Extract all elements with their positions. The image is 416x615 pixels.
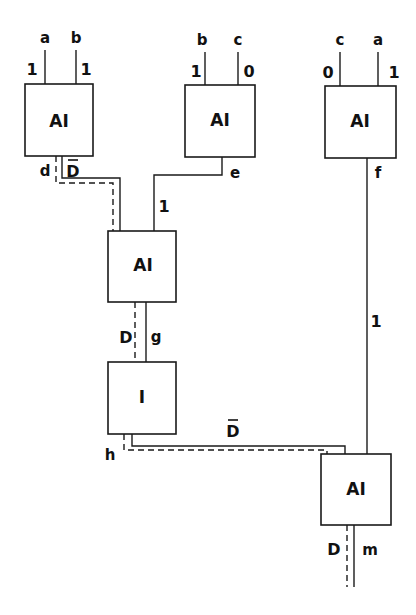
gate-label: AI bbox=[49, 111, 68, 131]
signal-label-c: c bbox=[234, 31, 243, 49]
gate-label: AI bbox=[133, 255, 152, 275]
signal-label-m: m bbox=[362, 541, 378, 559]
d-path-d bbox=[56, 156, 113, 231]
gate-5: I bbox=[108, 362, 176, 434]
value-label: 0 bbox=[243, 62, 254, 81]
value-label: 1 bbox=[80, 60, 91, 79]
gate-label: AI bbox=[350, 111, 369, 131]
gate-4: AI bbox=[108, 231, 176, 302]
value-label: 0 bbox=[322, 63, 333, 82]
wire-e bbox=[154, 157, 222, 231]
value-label-g: D bbox=[119, 328, 132, 347]
signal-label-g: g bbox=[151, 328, 162, 346]
value-label: 1 bbox=[26, 60, 37, 79]
signal-label-a: a bbox=[373, 31, 383, 49]
d-bar-label-d: D bbox=[66, 160, 79, 181]
signal-label-h: h bbox=[105, 446, 116, 464]
signal-label-f: f bbox=[375, 164, 382, 182]
value-label: 1 bbox=[388, 63, 399, 82]
gate-3: AI c a 0 1 bbox=[322, 31, 399, 158]
gate-label: AI bbox=[346, 479, 365, 499]
value-label: 1 bbox=[190, 62, 201, 81]
gate-2: AI b c 1 0 bbox=[185, 31, 255, 157]
svg-text:D: D bbox=[66, 162, 79, 181]
signal-label-d: d bbox=[40, 162, 51, 180]
value-label-e: 1 bbox=[158, 197, 169, 216]
signal-label-a: a bbox=[40, 29, 50, 47]
gate-label: I bbox=[139, 387, 145, 407]
signal-label-e: e bbox=[230, 164, 240, 182]
gate-6: AI bbox=[321, 454, 391, 525]
circuit-diagram: AI a b 1 1 AI b c 1 0 AI c a 0 1 d D e 1 bbox=[0, 0, 416, 615]
value-label-m: D bbox=[327, 540, 340, 559]
value-label-f: 1 bbox=[370, 312, 381, 331]
svg-text:D: D bbox=[226, 422, 239, 441]
signal-label-b: b bbox=[197, 31, 208, 49]
gate-label: AI bbox=[210, 110, 229, 130]
d-bar-label-h: D bbox=[226, 420, 239, 441]
signal-label-b: b bbox=[71, 29, 82, 47]
gate-1: AI a b 1 1 bbox=[25, 29, 93, 156]
signal-label-c: c bbox=[336, 31, 345, 49]
